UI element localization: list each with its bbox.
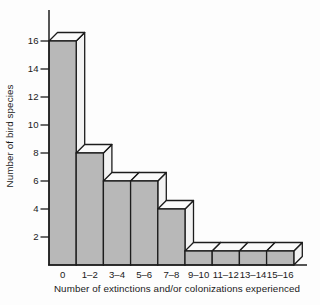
y-tick-label: 12 <box>28 91 39 102</box>
bar-front-face <box>239 251 266 265</box>
x-tick-label: 13–14 <box>240 269 267 280</box>
y-tick-label: 8 <box>33 147 38 158</box>
bar-front-face <box>131 181 158 265</box>
bar-front-face <box>76 153 103 265</box>
x-tick-label: 11–12 <box>213 269 239 280</box>
x-tick-label: 7–8 <box>163 269 179 280</box>
y-tick-label: 6 <box>33 175 38 186</box>
y-tick-label: 4 <box>33 203 39 214</box>
y-tick-label: 2 <box>33 231 38 242</box>
y-tick-label: 10 <box>28 119 39 130</box>
bar-front-face <box>158 209 185 265</box>
bar-front-face <box>212 251 239 265</box>
x-axis-title: Number of extinctions and/or colonizatio… <box>54 283 300 294</box>
x-tick-label: 9–10 <box>188 269 209 280</box>
x-tick-label: 3–4 <box>109 269 126 280</box>
x-tick-label: 0 <box>60 269 65 280</box>
x-tick-label: 1–2 <box>82 269 98 280</box>
x-tick-label: 5–6 <box>136 269 152 280</box>
bar-front-face <box>103 181 130 265</box>
histogram-figure: 24681012141601–23–45–67–89–1011–1213–141… <box>0 0 320 305</box>
y-axis-title: Number of bird species <box>4 85 15 188</box>
bar-front-face <box>267 251 294 265</box>
bar-15–16 <box>267 243 303 266</box>
bar-front-face <box>49 41 76 265</box>
x-tick-label: 15–16 <box>267 269 294 280</box>
y-tick-label: 14 <box>28 63 39 74</box>
y-tick-label: 16 <box>28 35 39 46</box>
chart-canvas: 24681012141601–23–45–67–89–1011–1213–141… <box>0 0 320 305</box>
bars-layer <box>49 33 302 266</box>
bar-front-face <box>185 251 212 265</box>
